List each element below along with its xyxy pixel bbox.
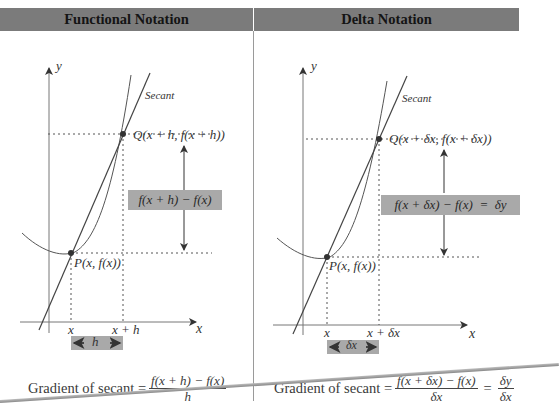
y-axis-label: y <box>311 58 317 74</box>
interval-label: h <box>92 334 99 350</box>
function-curve <box>277 81 387 258</box>
x-axis-label: x <box>196 321 202 337</box>
tick-x-plus-dx: x + δx <box>367 325 400 341</box>
equals-sign: = <box>484 380 492 397</box>
denominator: h <box>184 389 191 404</box>
point-q-label: Q(x + δx, f(x + δx)) <box>389 131 492 147</box>
denominator: δx <box>430 389 442 404</box>
gradient-formula-delta: Gradient of secant = f(x + δx) − f(x) δx… <box>274 373 517 404</box>
point-q-label: Q(x + h, f(x + h)) <box>133 127 225 143</box>
numerator: δy <box>498 373 514 389</box>
secant-label: Secant <box>145 89 174 101</box>
point-p-label: P(x, f(x)) <box>74 255 121 271</box>
point-q <box>376 136 382 142</box>
difference-box: f(x + h) − f(x) <box>128 190 222 210</box>
secant-label: Secant <box>402 92 431 104</box>
fraction: f(x + δx) − f(x) δx <box>395 373 477 404</box>
point-p-label: P(x, f(x)) <box>329 258 376 274</box>
tick-x: x <box>324 325 330 341</box>
point-q <box>120 131 126 137</box>
y-axis-label: y <box>56 58 62 74</box>
x-axis-label: x <box>469 326 475 342</box>
tick-x: x <box>68 322 74 338</box>
tick-x-plus-h: x + h <box>112 322 140 338</box>
difference-box: f(x + δx) − f(x) = δy <box>381 195 520 215</box>
fraction-dy-dx: δy δx <box>498 373 514 404</box>
difference-text: f(x + δx) − f(x) = δy <box>394 197 506 213</box>
denominator: δx <box>500 389 512 404</box>
function-curve <box>22 75 131 254</box>
difference-text: f(x + h) − f(x) <box>138 192 211 208</box>
interval-label: δx <box>346 338 357 353</box>
